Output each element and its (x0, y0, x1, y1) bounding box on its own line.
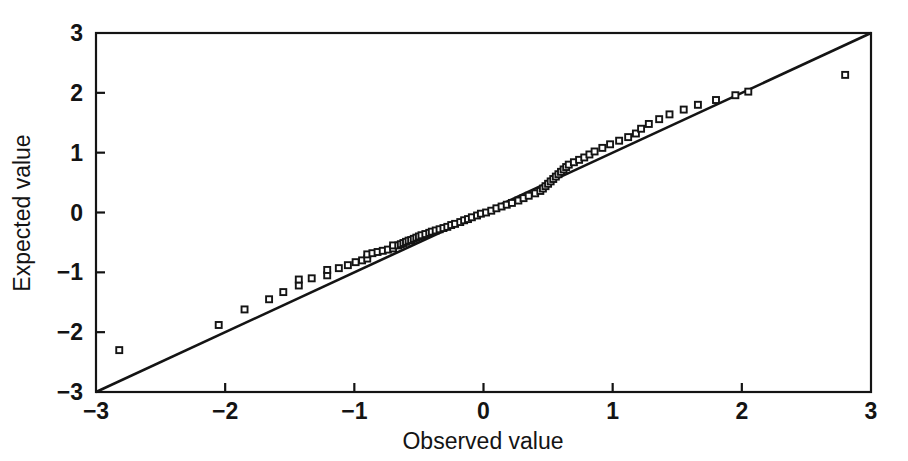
data-point (336, 265, 342, 271)
data-point (309, 275, 315, 281)
data-point (599, 145, 605, 151)
x-tick-label: 0 (477, 398, 490, 424)
x-tick-label: 2 (735, 398, 748, 424)
y-axis-title: Expected value (9, 134, 35, 291)
data-point (116, 347, 122, 353)
data-point (695, 102, 701, 108)
x-tick-label: 3 (865, 398, 878, 424)
data-point (280, 289, 286, 295)
data-point (681, 107, 687, 113)
data-point (242, 306, 248, 312)
y-tick-label: −3 (57, 379, 83, 405)
y-axis-ticks (96, 93, 105, 332)
data-point (353, 259, 359, 265)
data-point (324, 267, 330, 273)
data-point (216, 322, 222, 328)
qq-plot-figure: −3−2−10123 −3−2−10123 Observed value Exp… (0, 0, 908, 461)
x-axis-ticks (225, 383, 742, 392)
y-tick-label: 3 (70, 20, 83, 46)
data-point (745, 89, 751, 95)
data-point (526, 193, 532, 199)
data-point (266, 296, 272, 302)
x-tick-label: 1 (606, 398, 619, 424)
x-tick-label: −3 (83, 398, 109, 424)
data-point (656, 116, 662, 122)
data-point (592, 148, 598, 154)
data-point (638, 126, 644, 132)
y-tick-label: −2 (57, 319, 83, 345)
y-tick-label: 1 (70, 140, 83, 166)
x-tick-label: −1 (341, 398, 367, 424)
plot-canvas: −3−2−10123 −3−2−10123 Observed value Exp… (0, 0, 908, 461)
data-point (509, 200, 515, 206)
data-point (646, 121, 652, 127)
data-point (616, 138, 622, 144)
x-axis-tick-labels: −3−2−10123 (83, 398, 878, 424)
y-tick-label: 0 (70, 200, 83, 226)
data-point (842, 72, 848, 78)
data-point (713, 97, 719, 103)
data-point (667, 111, 673, 117)
y-tick-label: −1 (57, 259, 83, 285)
data-point (345, 262, 351, 268)
y-tick-label: 2 (70, 80, 83, 106)
data-point (607, 141, 613, 147)
x-axis-title: Observed value (402, 428, 563, 454)
scatter-points (116, 72, 848, 353)
data-point (296, 277, 302, 283)
y-axis-tick-labels: −3−2−10123 (57, 20, 83, 405)
data-point (732, 92, 738, 98)
data-point (625, 134, 631, 140)
x-tick-label: −2 (212, 398, 238, 424)
